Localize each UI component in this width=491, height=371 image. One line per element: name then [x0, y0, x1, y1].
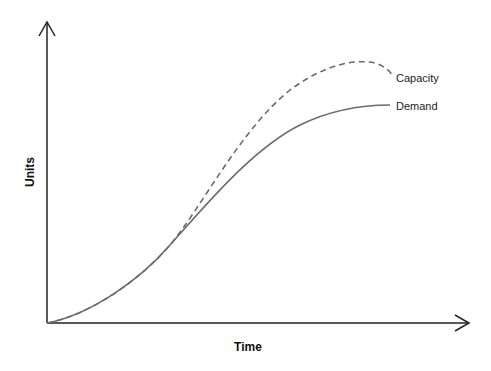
x-axis-label: Time	[234, 340, 262, 354]
capacity-line	[47, 62, 392, 323]
demand-label: Demand	[396, 100, 438, 112]
chart: Capacity Demand Time Units	[0, 0, 491, 371]
capacity-label: Capacity	[396, 72, 439, 84]
demand-line	[47, 105, 390, 323]
y-axis-label: Units	[23, 157, 37, 187]
